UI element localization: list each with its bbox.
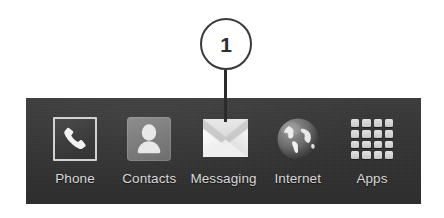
dock-item-apps[interactable]: Apps <box>337 117 407 186</box>
dock-label-messaging: Messaging <box>190 171 256 186</box>
apps-grid-cell <box>374 119 382 127</box>
apps-grid-cell <box>374 151 382 159</box>
dock-item-messaging[interactable]: Messaging <box>189 117 259 186</box>
contacts-person-icon <box>127 117 171 161</box>
apps-grid-cell <box>385 119 393 127</box>
dock-item-internet[interactable]: Internet <box>263 117 333 186</box>
callout-leader-line <box>224 66 227 122</box>
envelope-icon <box>203 119 248 157</box>
dock-item-phone[interactable]: Phone <box>40 117 110 186</box>
apps-grid-cell <box>374 130 382 138</box>
apps-grid-cell <box>374 141 382 149</box>
dock-label-contacts: Contacts <box>122 171 176 186</box>
apps-grid-cell <box>362 130 370 138</box>
apps-grid-cell <box>362 119 370 127</box>
dock-label-internet: Internet <box>274 171 321 186</box>
contacts-icon-wrap[interactable] <box>127 117 171 161</box>
dock-label-phone: Phone <box>55 171 95 186</box>
globe-icon <box>276 117 320 161</box>
phone-icon-wrap[interactable] <box>53 117 97 161</box>
apps-grid-cell <box>351 151 359 159</box>
apps-grid-cell <box>362 141 370 149</box>
apps-grid-cell <box>362 151 370 159</box>
internet-icon-wrap[interactable] <box>276 117 320 161</box>
apps-grid-cell <box>385 141 393 149</box>
messaging-icon-wrap[interactable] <box>202 117 246 161</box>
callout-number: 1 <box>220 34 232 55</box>
apps-grid-cell <box>351 141 359 149</box>
apps-grid-cell <box>385 130 393 138</box>
apps-grid-cell <box>351 119 359 127</box>
apps-grid-cell <box>385 151 393 159</box>
callout-badge-1: 1 <box>200 18 252 70</box>
apps-grid-cell <box>351 130 359 138</box>
apps-grid-icon <box>351 119 393 159</box>
dock-label-apps: Apps <box>356 171 387 186</box>
dock-item-contacts[interactable]: Contacts <box>114 117 184 186</box>
apps-icon-wrap[interactable] <box>350 117 394 161</box>
phone-handset-icon <box>53 117 97 161</box>
